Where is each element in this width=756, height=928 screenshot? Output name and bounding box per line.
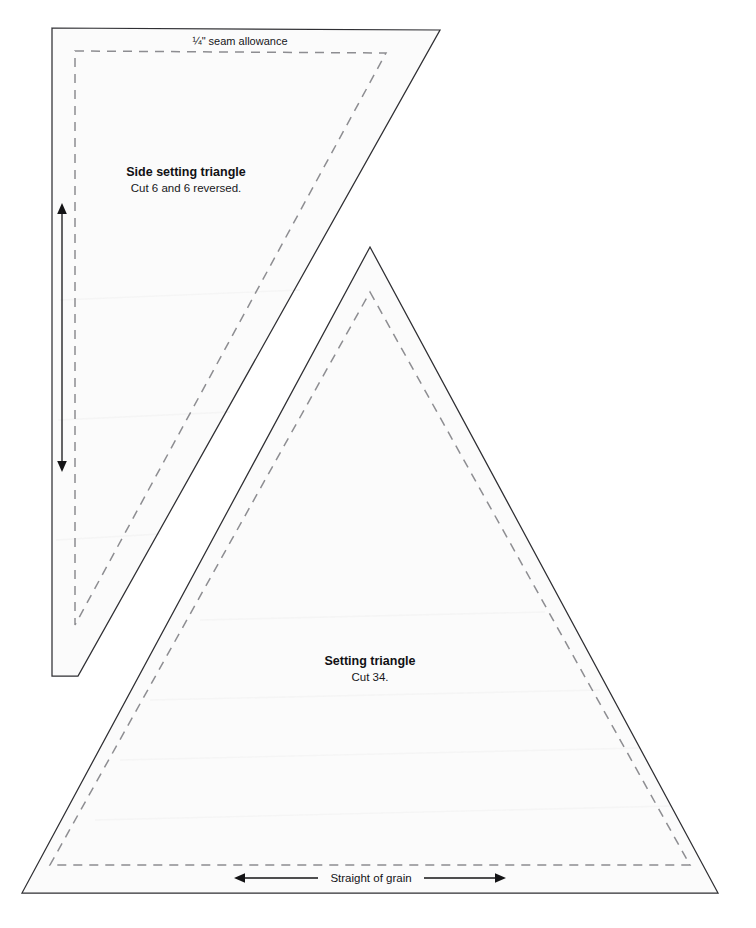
side-setting-triangle-title: Side setting triangle [126,165,246,179]
setting-triangle-title: Setting triangle [325,654,416,668]
pattern-drawing-canvas: ¼" seam allowance Side setting triangle … [0,0,756,928]
seam-allowance-label: ¼" seam allowance [192,35,287,47]
side-setting-triangle-cut-instruction: Cut 6 and 6 reversed. [131,182,242,194]
straight-of-grain-label: Straight of grain [330,872,411,884]
setting-triangle-cut-instruction: Cut 34. [351,671,388,683]
pattern-sheet: ¼" seam allowance Side setting triangle … [0,0,756,928]
